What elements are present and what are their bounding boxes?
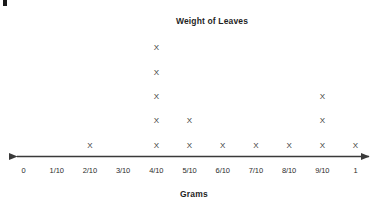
data-point-marker: X — [84, 142, 96, 150]
data-point-marker: X — [150, 117, 162, 125]
data-point-marker: X — [184, 142, 196, 150]
tick-label: 9/10 — [307, 166, 337, 175]
data-point-marker: X — [150, 69, 162, 77]
tick-label: 4/10 — [141, 166, 171, 175]
tick-label: 1/10 — [42, 166, 72, 175]
data-point-marker: X — [150, 44, 162, 52]
tick-label: 6/10 — [208, 166, 238, 175]
data-point-marker: X — [217, 142, 229, 150]
data-point-marker: X — [316, 117, 328, 125]
tick-label: 0 — [9, 166, 39, 175]
page-title: Weight of Leaves — [18, 16, 388, 26]
tick-label: 2/10 — [75, 166, 105, 175]
tick-label: 7/10 — [241, 166, 271, 175]
tick-label: 3/10 — [108, 166, 138, 175]
tick-label: 8/10 — [274, 166, 304, 175]
data-point-marker: X — [250, 142, 262, 150]
data-point-marker: X — [150, 142, 162, 150]
data-point-marker: X — [150, 93, 162, 101]
tick-label: 1 — [341, 166, 371, 175]
number-line-axis — [0, 0, 388, 206]
data-point-marker: X — [316, 142, 328, 150]
data-point-marker: X — [350, 142, 362, 150]
data-point-marker: X — [316, 93, 328, 101]
data-point-marker: X — [184, 117, 196, 125]
tick-label: 5/10 — [175, 166, 205, 175]
x-axis-label: Grams — [0, 189, 388, 199]
scan-artifact — [3, 0, 7, 6]
data-point-marker: X — [283, 142, 295, 150]
dot-plot-chart: Weight of Leaves 01/102/103/104/105/106/… — [0, 0, 388, 206]
